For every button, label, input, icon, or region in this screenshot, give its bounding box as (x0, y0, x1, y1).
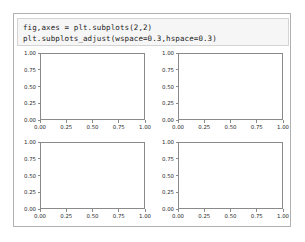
y-tick-label: 0.75 (24, 67, 38, 73)
y-tick-mark (38, 158, 41, 159)
x-tick-label: 0.00 (34, 124, 46, 130)
y-tick-label: 0.25 (24, 189, 38, 195)
y-tick-mark (176, 103, 179, 104)
y-tick-label: 1.00 (162, 139, 176, 145)
y-tick-label: 0.75 (162, 67, 176, 73)
code-line-1: fig,axes = plt.subplots(2,2) (23, 22, 283, 33)
y-tick-label: 0.00 (162, 117, 176, 123)
x-tick-mark (118, 120, 119, 123)
y-tick-mark (38, 86, 41, 87)
x-tick-mark (256, 209, 257, 212)
x-tick-mark (66, 120, 67, 123)
x-tick-label: 0.75 (251, 124, 263, 130)
y-tick-mark (176, 192, 179, 193)
y-tick-label: 0.75 (24, 156, 38, 162)
y-tick-mark (176, 158, 179, 159)
y-tick-label: 0.75 (162, 156, 176, 162)
plot-box (40, 142, 145, 209)
x-tick-label: 0.25 (198, 213, 210, 219)
subplot-grid: 0.000.250.500.751.000.000.250.500.751.00… (17, 48, 289, 224)
x-tick-mark (92, 209, 93, 212)
x-axis: 0.000.250.500.751.00 (40, 120, 145, 133)
y-tick-mark (176, 175, 179, 176)
x-tick-mark (283, 120, 284, 123)
y-tick-mark (176, 69, 179, 70)
plot-box (178, 142, 283, 209)
x-tick-label: 1.00 (277, 213, 289, 219)
y-tick-label: 0.25 (162, 189, 176, 195)
x-tick-label: 0.25 (198, 124, 210, 130)
x-tick-mark (230, 120, 231, 123)
y-tick-label: 0.50 (162, 84, 176, 90)
y-tick-label: 0.00 (24, 117, 38, 123)
notebook-output-frame: fig,axes = plt.subplots(2,2) plt.subplot… (13, 13, 291, 227)
x-axis: 0.000.250.500.751.00 (178, 120, 283, 133)
axes-area: 0.000.250.500.751.000.000.250.500.751.00 (40, 53, 145, 120)
plot-box (40, 53, 145, 120)
x-tick-label: 0.50 (225, 124, 237, 130)
x-tick-label: 1.00 (139, 124, 151, 130)
x-tick-mark (92, 120, 93, 123)
x-tick-label: 0.00 (172, 213, 184, 219)
y-tick-label: 0.50 (162, 173, 176, 179)
axes-area: 0.000.250.500.751.000.000.250.500.751.00 (178, 53, 283, 120)
x-tick-mark (178, 120, 179, 123)
y-axis: 0.000.250.500.751.00 (19, 53, 40, 120)
x-tick-mark (230, 209, 231, 212)
x-tick-label: 0.50 (87, 124, 99, 130)
x-tick-mark (118, 209, 119, 212)
x-tick-mark (204, 209, 205, 212)
subplot-top-left: 0.000.250.500.751.000.000.250.500.751.00 (19, 50, 147, 133)
x-tick-label: 0.00 (34, 213, 46, 219)
code-line-2: plt.subplots_adjust(wspace=0.3,hspace=0.… (23, 33, 283, 44)
matplotlib-figure: 0.000.250.500.751.000.000.250.500.751.00… (17, 48, 289, 224)
y-tick-label: 0.25 (162, 100, 176, 106)
subplot-bottom-left: 0.000.250.500.751.000.000.250.500.751.00 (19, 139, 147, 222)
y-tick-mark (38, 69, 41, 70)
x-tick-mark (40, 120, 41, 123)
y-tick-label: 0.00 (24, 206, 38, 212)
x-tick-label: 0.50 (87, 213, 99, 219)
x-tick-label: 0.75 (113, 213, 125, 219)
y-tick-mark (38, 192, 41, 193)
y-tick-label: 0.50 (24, 84, 38, 90)
y-tick-mark (176, 86, 179, 87)
x-tick-label: 1.00 (139, 213, 151, 219)
x-tick-mark (204, 120, 205, 123)
x-tick-label: 0.50 (225, 213, 237, 219)
y-tick-mark (176, 142, 179, 143)
x-tick-label: 0.75 (113, 124, 125, 130)
y-tick-mark (38, 103, 41, 104)
y-tick-label: 1.00 (24, 139, 38, 145)
subplot-bottom-right: 0.000.250.500.751.000.000.250.500.751.00 (157, 139, 285, 222)
y-tick-label: 1.00 (162, 50, 176, 56)
x-axis: 0.000.250.500.751.00 (178, 209, 283, 222)
x-tick-mark (66, 209, 67, 212)
y-tick-label: 1.00 (24, 50, 38, 56)
y-axis: 0.000.250.500.751.00 (157, 53, 178, 120)
y-tick-label: 0.00 (162, 206, 176, 212)
y-axis: 0.000.250.500.751.00 (19, 142, 40, 209)
y-axis: 0.000.250.500.751.00 (157, 142, 178, 209)
x-tick-label: 0.25 (60, 124, 72, 130)
axes-area: 0.000.250.500.751.000.000.250.500.751.00 (40, 142, 145, 209)
code-cell[interactable]: fig,axes = plt.subplots(2,2) plt.subplot… (17, 18, 289, 46)
x-tick-label: 0.00 (172, 124, 184, 130)
x-tick-label: 1.00 (277, 124, 289, 130)
x-tick-label: 0.75 (251, 213, 263, 219)
y-tick-label: 0.50 (24, 173, 38, 179)
x-tick-label: 0.25 (60, 213, 72, 219)
x-tick-mark (178, 209, 179, 212)
axes-area: 0.000.250.500.751.000.000.250.500.751.00 (178, 142, 283, 209)
plot-box (178, 53, 283, 120)
y-tick-mark (38, 53, 41, 54)
x-tick-mark (145, 120, 146, 123)
y-tick-mark (176, 53, 179, 54)
x-tick-mark (145, 209, 146, 212)
y-tick-mark (38, 175, 41, 176)
x-tick-mark (40, 209, 41, 212)
y-tick-label: 0.25 (24, 100, 38, 106)
x-tick-mark (256, 120, 257, 123)
subplot-top-right: 0.000.250.500.751.000.000.250.500.751.00 (157, 50, 285, 133)
y-tick-mark (38, 142, 41, 143)
